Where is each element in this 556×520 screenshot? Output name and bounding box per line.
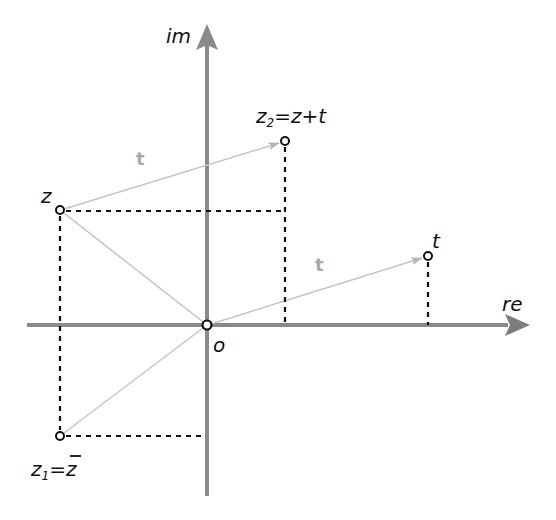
segment-o-z1: [60, 325, 207, 436]
point-z1: [56, 432, 64, 440]
vector-t-label-lower: t: [315, 254, 324, 275]
point-z: [56, 206, 64, 214]
vector-t-label-upper: t: [136, 148, 145, 169]
imaginary-axis-label: im: [166, 24, 191, 48]
origin-label: o: [213, 333, 225, 357]
point-z1-label: z1=z: [30, 456, 81, 483]
point-z2-label: z2=z+t: [255, 104, 327, 130]
svg-text:z1=z: z1=z: [30, 457, 77, 483]
point-origin: [203, 321, 212, 330]
real-axis-label: re: [502, 292, 523, 316]
complex-plane-diagram: im re o z t z2=z+t z1=z t t: [0, 0, 556, 520]
real-axis: [27, 314, 530, 336]
segment-o-z: [60, 210, 207, 325]
point-t-label: t: [432, 229, 441, 253]
point-z2: [281, 137, 289, 145]
vector-t-from-z: [64, 143, 279, 209]
imaginary-axis: [196, 24, 218, 496]
point-t: [424, 252, 432, 260]
projection-lines: [60, 147, 428, 436]
real-axis-arrow-icon: [505, 314, 530, 336]
point-z-label: z: [40, 184, 52, 208]
